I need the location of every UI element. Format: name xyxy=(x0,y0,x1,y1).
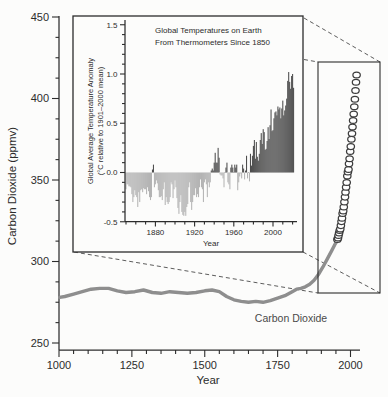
connector-top-right xyxy=(304,18,380,62)
svg-text:400: 400 xyxy=(31,92,49,104)
svg-text:450: 450 xyxy=(31,11,49,23)
svg-text:0.0: 0.0 xyxy=(106,168,118,177)
main-x-axis-label: Year xyxy=(196,374,219,386)
main-y-ticks: 250300350400450 xyxy=(31,11,59,349)
connector-bottom-right xyxy=(303,252,380,293)
co2-circles xyxy=(334,72,361,242)
inset-y-axis-label-line1: Global Average Temperature Anomaly xyxy=(86,58,95,184)
co2-temperature-figure: 250300350400450 10001250150017502000 Car… xyxy=(0,0,388,397)
svg-text:1880: 1880 xyxy=(147,228,165,237)
temperature-inset: Global Temperatures on Earth From Thermo… xyxy=(73,16,303,252)
figure-canvas: 250300350400450 10001250150017502000 Car… xyxy=(0,0,388,397)
svg-text:0.5: 0.5 xyxy=(106,119,118,128)
co2-curve-label: Carbon Dioxide xyxy=(255,312,328,324)
main-x-ticks: 10001250150017502000 xyxy=(47,350,363,371)
svg-text:350: 350 xyxy=(31,174,49,186)
svg-text:1000: 1000 xyxy=(47,359,71,371)
svg-text:1960: 1960 xyxy=(225,228,243,237)
main-y-axis-label: Carbon Dioxide (ppmv) xyxy=(6,127,18,245)
connector-bottom-left xyxy=(74,252,318,293)
svg-text:1.0: 1.0 xyxy=(106,70,118,79)
svg-text:2000: 2000 xyxy=(338,359,362,371)
inset-title-line1: Global Temperatures on Earth xyxy=(155,26,262,35)
svg-text:2000: 2000 xyxy=(264,228,282,237)
svg-text:1920: 1920 xyxy=(186,228,204,237)
inset-title-line2: From Thermometers Since 1850 xyxy=(155,38,271,47)
svg-text:300: 300 xyxy=(31,255,49,267)
svg-text:1250: 1250 xyxy=(120,359,144,371)
svg-text:1500: 1500 xyxy=(193,359,217,371)
svg-text:250: 250 xyxy=(31,337,49,349)
svg-text:1.5: 1.5 xyxy=(106,21,118,30)
svg-text:-0.5: -0.5 xyxy=(104,218,118,227)
inset-y-axis-label-line2: (°C relative to 1901–2000 mean) xyxy=(96,66,105,175)
svg-text:1750: 1750 xyxy=(265,359,289,371)
inset-x-axis-label: Year xyxy=(203,239,220,248)
connector-top-left xyxy=(304,60,318,63)
